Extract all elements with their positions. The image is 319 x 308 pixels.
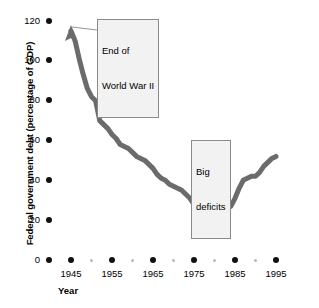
annotation-end-of-wwii-line2: World War II xyxy=(102,80,154,92)
plot-area xyxy=(0,0,319,308)
leader-line-wwii xyxy=(72,27,97,30)
annotation-end-of-wwii-line1: End of xyxy=(102,45,154,57)
chart-container: Federal government debt (percentage of G… xyxy=(0,0,319,308)
annotation-big-deficits-line1: Big xyxy=(196,166,226,178)
annotation-big-deficits-line2: deficits xyxy=(196,201,226,213)
annotation-end-of-wwii: End of World War II xyxy=(97,19,159,118)
annotation-big-deficits: Big deficits xyxy=(191,140,231,239)
